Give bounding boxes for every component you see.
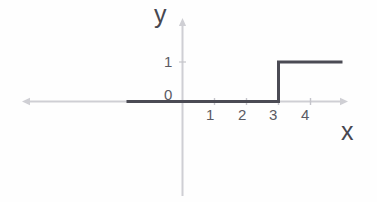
- y-tick-label-0: 0: [164, 87, 172, 102]
- y-axis: [179, 18, 186, 196]
- chart-canvas: [0, 0, 377, 202]
- step-function-curve: [127, 62, 343, 102]
- y-axis-up-arrow-icon: [179, 18, 186, 26]
- x-axis-title: x: [341, 119, 354, 144]
- step-function-chart: y x 1 0 1 2 3 4: [0, 0, 377, 202]
- x-axis-right-arrow-icon: [340, 98, 348, 105]
- step-curve-path: [127, 62, 343, 102]
- y-axis-title: y: [154, 2, 167, 27]
- x-tick-label-1: 1: [206, 107, 214, 122]
- x-tick-label-2: 2: [238, 107, 246, 122]
- x-axis-left-arrow-icon: [22, 98, 30, 105]
- y-tick-label-1: 1: [164, 54, 172, 69]
- x-tick-label-4: 4: [301, 107, 309, 122]
- x-tick-label-3: 3: [269, 107, 277, 122]
